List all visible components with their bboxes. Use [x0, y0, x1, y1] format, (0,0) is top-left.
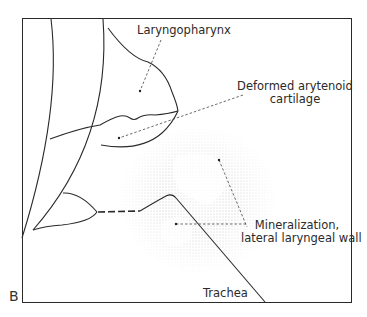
- outer-arc: [22, 19, 53, 238]
- label-mineralization: Mineralization, lateral laryngeal wall: [241, 219, 353, 245]
- lower-lobe-top: [63, 193, 97, 212]
- label-mineralization-line2: lateral laryngeal wall: [241, 232, 353, 245]
- label-arytenoid: Deformed arytenoid cartilage: [233, 80, 357, 106]
- panel-letter: B: [9, 289, 19, 303]
- label-trachea: Trachea: [203, 287, 248, 300]
- diagram-drawing: [0, 0, 367, 317]
- lower-lobe-bottom: [33, 212, 97, 230]
- label-arytenoid-line2: cartilage: [233, 93, 357, 106]
- leader-laryngopharynx: [140, 40, 161, 91]
- laryngopharynx-outline: [108, 28, 178, 111]
- inner-arc: [33, 19, 104, 230]
- label-laryngopharynx: Laryngopharynx: [137, 24, 231, 37]
- anatomy-diagram: Laryngopharynx Deformed arytenoid cartil…: [0, 0, 367, 317]
- dashed-connector: [98, 211, 140, 212]
